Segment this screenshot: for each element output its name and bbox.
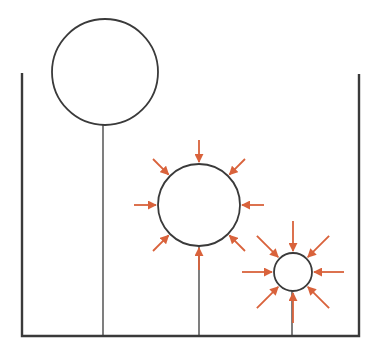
pressure-arrow-icon [153, 159, 169, 175]
diagram-canvas [0, 0, 380, 362]
pressure-arrow-icon [229, 235, 245, 251]
small-balloon [274, 253, 312, 291]
large-balloon [52, 19, 158, 125]
balloon-pressure-diagram [0, 0, 380, 362]
pressure-arrow-icon [308, 236, 329, 257]
medium-balloon [158, 164, 240, 246]
pressure-arrow-icon [257, 287, 278, 308]
pressure-arrow-icon [257, 236, 278, 257]
pressure-arrow-icon [229, 159, 245, 175]
pressure-arrow-icon [153, 235, 169, 251]
pressure-arrows [134, 140, 344, 323]
balloons [52, 19, 312, 291]
pressure-arrow-icon [308, 287, 329, 308]
